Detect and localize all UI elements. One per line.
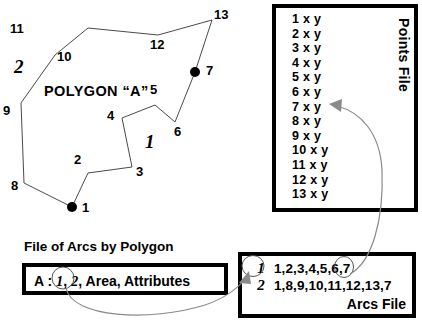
highlight-ellipse-arc-1-reference (52, 267, 74, 289)
link-arrowhead-points-file (329, 99, 342, 112)
link-curve-polygon-to-arcs-file (66, 278, 246, 315)
link-curve-arcs-file-to-points-file (337, 106, 382, 274)
highlight-ellipse-arcs-file-row-1 (242, 256, 264, 277)
cross-reference-links (0, 0, 422, 328)
highlight-ellipse-point-7 (335, 257, 354, 278)
diagram-canvas: POLYGON “A” 2 1 1 2 3 4 5 6 7 8 9 10 11 … (0, 0, 422, 328)
